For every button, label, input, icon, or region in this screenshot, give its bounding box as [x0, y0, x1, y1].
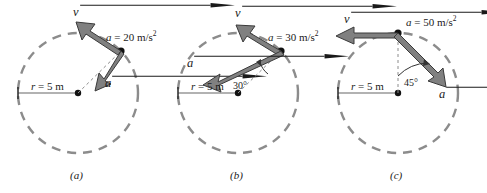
- radius-label: r = 5 m: [31, 81, 64, 92]
- velocity-vector-label: v: [73, 6, 79, 19]
- panel-a: a = 20 m/s2 r = 5 m v a (a): [0, 0, 163, 193]
- panel-b-graphic: [160, 0, 323, 193]
- acceleration-vector: [394, 33, 446, 87]
- panel-caption: (b): [230, 170, 243, 181]
- angle-label: 45°: [404, 78, 418, 88]
- panel-caption: (c): [390, 170, 402, 181]
- velocity-vector-label: v: [344, 13, 350, 26]
- velocity-vector-label: v: [235, 7, 241, 20]
- panel-a-graphic: [0, 0, 163, 193]
- acceleration-magnitude-label: a = 20 m/s2: [106, 30, 157, 43]
- angle-label: 30°: [233, 81, 247, 91]
- acceleration-vector-label: a: [187, 57, 193, 70]
- panel-c-graphic: [320, 0, 483, 193]
- panel-b: a = 30 m/s2 r = 5 m v a 30°: [160, 0, 323, 193]
- radius-label: r = 5 m: [351, 81, 384, 92]
- acceleration-magnitude-label: a = 50 m/s2: [406, 15, 457, 28]
- acceleration-magnitude-label: a = 30 m/s2: [268, 30, 319, 43]
- panel-c: a = 50 m/s2 r = 5 m v a 45°: [320, 0, 483, 193]
- physics-figure: a = 20 m/s2 r = 5 m v a (a): [0, 0, 487, 193]
- velocity-vector: [336, 27, 398, 44]
- panel-caption: (a): [70, 170, 83, 181]
- acceleration-vector-label: a: [439, 88, 445, 101]
- radius-label: r = 5 m: [191, 81, 224, 92]
- acceleration-vector-label: a: [105, 77, 111, 90]
